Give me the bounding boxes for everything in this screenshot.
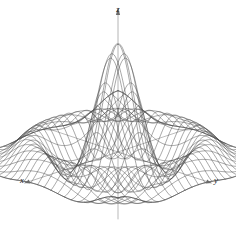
y-axis-label: y [213, 175, 218, 185]
z-axis-label: z [115, 4, 120, 14]
x-axis-label: x [19, 175, 24, 185]
axes-group [36, 12, 200, 152]
surface-plot-canvas: z x y [0, 0, 236, 233]
surface-plot-figure: z x y [0, 0, 236, 233]
